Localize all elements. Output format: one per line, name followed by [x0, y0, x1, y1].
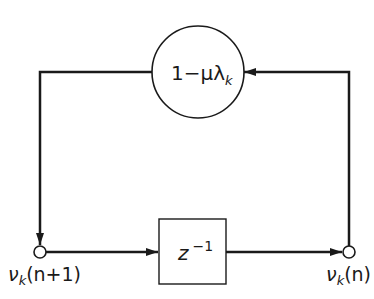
signal-flow-diagram: 1−μλk z−1 νk(n+1) νk(n): [0, 0, 374, 299]
feedback-edge-output-to-gain: [244, 72, 349, 246]
gain-block: 1−μλk: [152, 26, 244, 118]
input-node-label: νk(n+1): [8, 263, 81, 288]
output-node-label: νk(n): [326, 263, 371, 288]
output-node: [343, 246, 355, 258]
gain-label: 1−μλk: [171, 61, 233, 88]
edge-gain-to-input: [40, 72, 152, 245]
delay-block: z−1: [159, 219, 226, 284]
input-node: [34, 246, 46, 258]
